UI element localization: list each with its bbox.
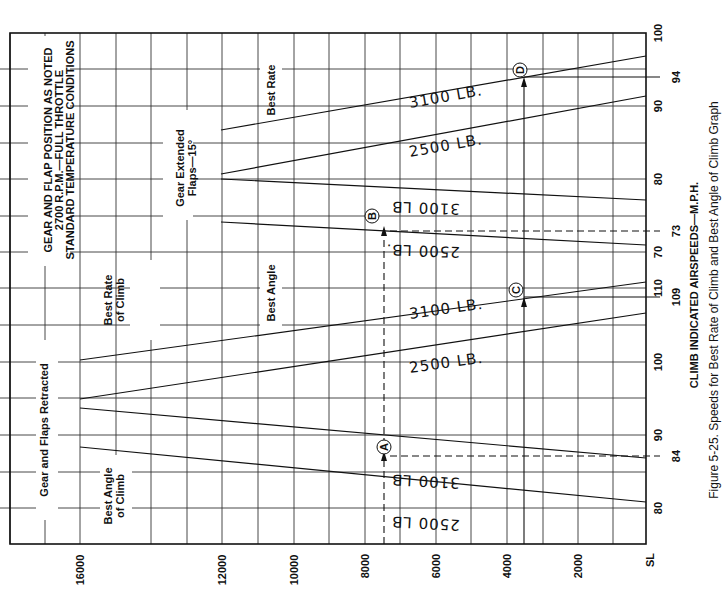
flaps-15-label: Flaps—15° [186,140,198,196]
svg-text:3100 LB.: 3100 LB. [408,295,484,323]
svg-text:100: 100 [652,353,664,371]
ret-best-rate-3100 [80,282,646,360]
svg-text:2500 LB.: 2500 LB. [408,349,484,377]
svg-text:10000: 10000 [288,555,300,586]
best-angle-label: Best Angle [265,264,277,321]
svg-text:SL: SL [644,553,656,567]
svg-text:2000: 2000 [572,554,584,578]
svg-text:90: 90 [652,100,664,112]
best-angle-of-climb-label-1: Best Angle [102,467,114,524]
svg-text:80: 80 [652,173,664,185]
marker-c: C [510,286,522,294]
figure-caption: Figure 5-25. Speeds for Best Rate of Cli… [707,101,721,499]
svg-text:100: 100 [652,24,664,42]
marker-a: A [378,443,390,451]
marker-b: B [366,212,378,220]
svg-text:6000: 6000 [430,554,442,578]
callout-73: 73 [670,225,682,237]
ret-best-angle-3100 [80,408,646,458]
svg-text:4000: 4000 [501,554,513,578]
conditions-line-3: STANDARD TEMPERATURE CONDITIONS [64,41,76,260]
svg-text:8000: 8000 [359,554,371,578]
svg-text:110: 110 [652,279,664,297]
best-rate-label: Best Rate [265,65,277,116]
svg-text:90: 90 [652,429,664,441]
ext-best-angle-3100 [221,179,646,200]
climb-speed-chart: A B C D 3100 LB. 2500 LB. 3100 LB 2500 L… [0,0,725,602]
svg-text:3100 LB.: 3100 LB. [408,81,484,112]
svg-text:70: 70 [652,246,664,258]
marker-d: D [514,66,526,74]
svg-text:80: 80 [652,502,664,514]
svg-text:16000: 16000 [74,555,86,586]
ret-best-rate-2500 [80,313,646,399]
ext-best-angle-2500 [221,222,646,245]
best-rate-of-climb-label-2: of Climb [114,278,126,322]
svg-text:2500 LB.: 2500 LB. [408,130,484,161]
svg-text:2500 LB: 2500 LB [391,512,460,534]
callout-94: 94 [670,70,682,83]
svg-text:12000: 12000 [216,555,228,586]
svg-text:2500 LB.: 2500 LB. [385,240,460,261]
gear-retracted-series [80,282,646,502]
gear-retracted-label: Gear and Flaps Retracted [38,363,50,496]
gear-extended-label: Gear Extended [174,129,186,207]
airspeed-axis: 100 90 80 70 110 100 90 80 94 73 109 84 [652,24,682,514]
airspeed-gridlines [0,69,646,508]
ret-best-angle-2500 [80,447,646,502]
svg-text:3100 LB: 3100 LB [391,470,460,492]
best-rate-of-climb-label-1: Best Rate [102,275,114,326]
best-angle-of-climb-label-2: of Climb [114,474,126,518]
callout-84: 84 [670,449,682,462]
axis-title: CLIMB INDICATED AIRSPEEDS—M.P.H. [688,182,700,388]
altitude-axis: 16000 12000 10000 8000 6000 4000 2000 SL [74,553,656,586]
svg-text:3100 LB: 3100 LB [391,198,460,218]
callout-109: 109 [670,288,682,306]
